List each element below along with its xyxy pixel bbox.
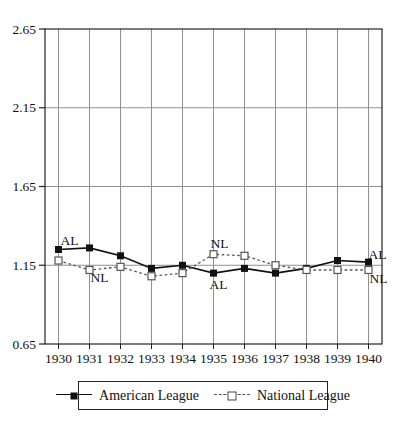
al-marker-1931 [86,244,93,251]
annotation-NL-1940: NL [370,271,388,286]
annotation-AL-1940: AL [369,247,387,262]
annotation-AL-1935: AL [210,277,228,292]
x-tick-label-1932: 1932 [107,351,134,366]
x-tick-label-1930: 1930 [45,351,72,366]
al-marker-1934 [179,262,186,269]
y-tick-label-1.65: 1.65 [12,179,36,194]
nl-marker-1934 [179,270,186,277]
x-tick-label-1937: 1937 [262,351,289,366]
legend: American League National League [78,381,328,410]
al-marker-1937 [272,270,279,277]
nl-marker-1930 [55,257,62,264]
al-marker-1939 [334,257,341,264]
american-league-marker-icon [56,390,92,401]
nl-marker-1933 [148,273,155,280]
nl-marker-1938 [303,266,310,273]
al-marker-1936 [241,265,248,272]
nl-marker-1935 [210,251,217,258]
al-marker-1933 [148,265,155,272]
nl-marker-1936 [241,252,248,259]
x-tick-label-1939: 1939 [324,351,351,366]
legend-item-american-league: American League [56,388,199,404]
open-square-icon [228,391,237,400]
x-tick-label-1936: 1936 [231,351,258,366]
x-tick-label-1933: 1933 [138,351,165,366]
x-tick-label-1934: 1934 [169,351,196,366]
line-chart-figure: 1930193119321933193419351936193719381939… [0,0,402,424]
legend-item-national-league: National League [214,388,350,404]
x-tick-label-1940: 1940 [355,351,382,366]
y-tick-label-1.15: 1.15 [12,258,36,273]
legend-label-national-league: National League [257,388,350,404]
al-marker-1932 [117,252,124,259]
national-league-marker-icon [214,390,250,401]
nl-marker-1932 [117,263,124,270]
y-tick-label-0.65: 0.65 [12,337,36,352]
annotation-AL-1930: AL [61,233,79,248]
plot-area: 1930193119321933193419351936193719381939… [0,0,402,424]
x-tick-label-1938: 1938 [293,351,320,366]
nl-marker-1939 [334,266,341,273]
filled-square-icon [71,392,78,399]
nl-marker-1937 [272,262,279,269]
x-tick-label-1931: 1931 [76,351,103,366]
y-tick-label-2.15: 2.15 [12,100,36,115]
y-tick-label-2.65: 2.65 [12,22,36,37]
annotation-NL-1931: NL [91,270,109,285]
al-marker-1935 [210,270,217,277]
x-tick-label-1935: 1935 [200,351,227,366]
annotation-NL-1935: NL [211,236,229,251]
legend-label-american-league: American League [99,388,199,404]
